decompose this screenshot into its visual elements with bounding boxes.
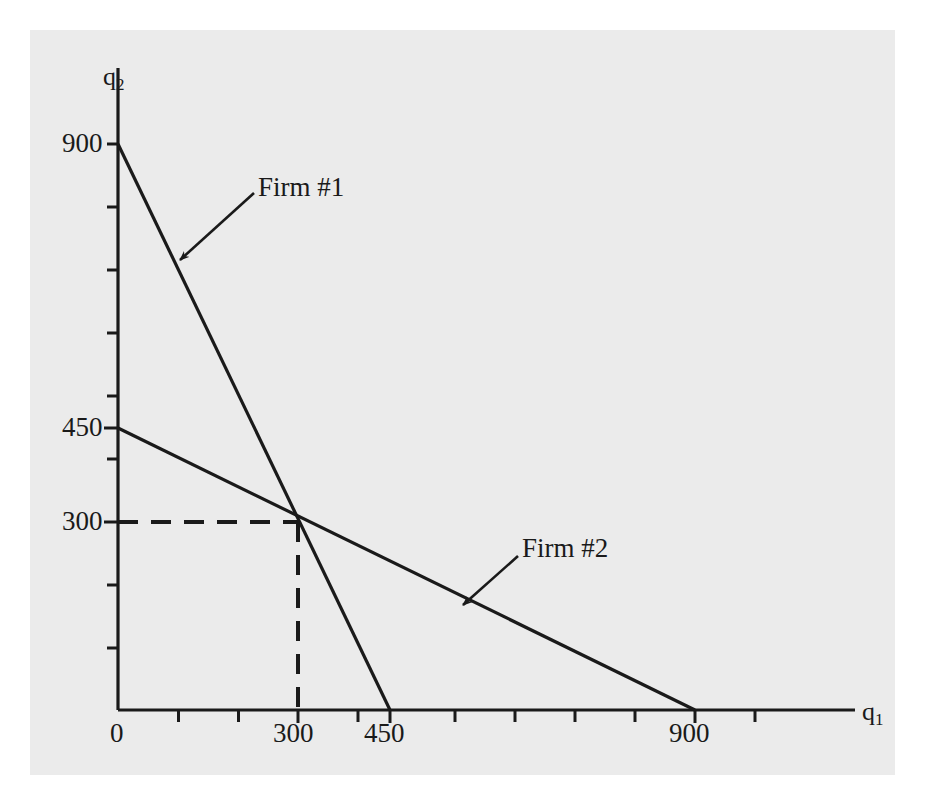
- x-tick-label-450: 450: [364, 718, 405, 749]
- y-tick-label-450: 450: [62, 412, 103, 443]
- y-axis-ticks: [104, 144, 118, 648]
- figure-page: q2 q1 900 450 300 0 300 450 900 Firm #1 …: [0, 0, 925, 808]
- firm2-reaction-line: [118, 428, 695, 710]
- firm2-annotation-label: Firm #2: [522, 533, 608, 564]
- y-tick-label-300: 300: [62, 506, 103, 537]
- x-tick-label-900: 900: [669, 718, 710, 749]
- y-tick-label-900: 900: [62, 128, 103, 159]
- x-tick-label-0: 0: [110, 718, 124, 749]
- firm1-reaction-line: [118, 144, 390, 710]
- firm2-annotation-arrow: [463, 556, 518, 605]
- y-axis: [104, 68, 118, 710]
- cournot-reaction-functions-plot: [0, 0, 925, 808]
- firm1-annotation-arrow: [180, 193, 254, 260]
- y-axis-label: q2: [103, 62, 125, 92]
- x-axis: [118, 710, 855, 723]
- x-axis-label: q1: [862, 697, 884, 727]
- x-tick-label-300: 300: [273, 718, 314, 749]
- firm1-annotation-label: Firm #1: [258, 172, 344, 203]
